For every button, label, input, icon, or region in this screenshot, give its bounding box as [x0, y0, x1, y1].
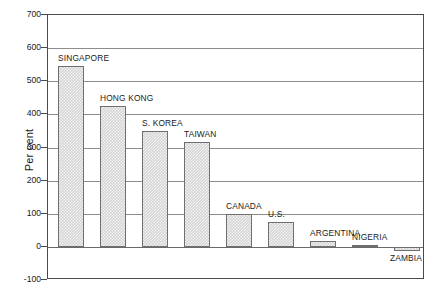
y-tick-label-300: 300: [0, 143, 41, 152]
bar-nigeria: [352, 245, 378, 247]
bar-singapore: [58, 66, 84, 247]
bar-label-s-korea: S. KOREA: [142, 119, 183, 128]
y-tick-label-0: 0: [0, 242, 41, 251]
gridline-500: [48, 81, 423, 82]
bar-taiwan: [184, 142, 210, 247]
bar-argentina: [310, 241, 336, 247]
bar-label-hong-kong: HONG KONG: [100, 94, 153, 103]
bar-label-zambia: ZAMBIA: [390, 254, 422, 263]
y-tick-label-100: 100: [0, 209, 41, 218]
bar-chart-figure: Per cent 7006005004003002001000-100 SING…: [0, 0, 435, 300]
y-tick-label-600: 600: [0, 43, 41, 52]
bar-zambia: [394, 247, 420, 251]
y-tick-label--100: -100: [0, 275, 41, 284]
y-tick-label-400: 400: [0, 109, 41, 118]
y-tick-label-500: 500: [0, 76, 41, 85]
plot-area: SINGAPOREHONG KONGS. KOREATAIWANCANADAU.…: [47, 14, 424, 279]
bar-label-taiwan: TAIWAN: [184, 130, 217, 139]
y-tick-mark--100: [41, 279, 47, 280]
gridline-0: [48, 247, 423, 248]
bar-label-canada: CANADA: [226, 202, 262, 211]
y-tick-label-700: 700: [0, 10, 41, 19]
gridline-600: [48, 48, 423, 49]
bar-u-s: [268, 222, 294, 247]
bar-hong-kong: [100, 106, 126, 247]
bar-label-u-s: U.S.: [268, 210, 285, 219]
bar-label-singapore: SINGAPORE: [58, 54, 109, 63]
y-tick-label-200: 200: [0, 176, 41, 185]
bar-label-nigeria: NIGERIA: [352, 233, 388, 242]
bar-canada: [226, 214, 252, 247]
bar-s-korea: [142, 131, 168, 247]
